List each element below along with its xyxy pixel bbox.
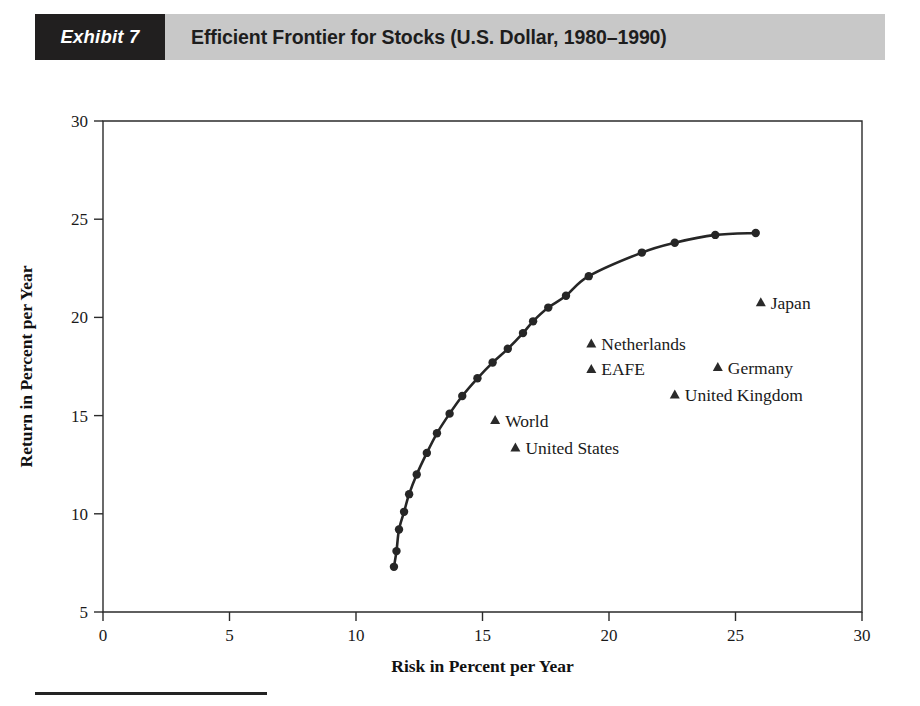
- exhibit-header: Exhibit 7 Efficient Frontier for Stocks …: [35, 14, 885, 60]
- frontier-data-point: [433, 429, 441, 437]
- country-marker-united-kingdom: [670, 389, 680, 398]
- y-axis-tick-label: 25: [71, 210, 88, 229]
- country-marker-united-states: [510, 443, 520, 452]
- x-axis-tick-label: 20: [601, 626, 618, 645]
- country-label-united-kingdom: United Kingdom: [685, 385, 804, 405]
- frontier-data-point: [392, 547, 400, 555]
- y-axis-tick-label: 20: [71, 308, 88, 327]
- frontier-data-point: [562, 292, 570, 300]
- frontier-data-point: [400, 508, 408, 516]
- frontier-data-point: [488, 358, 496, 366]
- country-label-world: World: [505, 411, 549, 431]
- country-label-netherlands: Netherlands: [601, 334, 686, 354]
- frontier-data-point: [473, 374, 481, 382]
- frontier-data-point: [585, 272, 593, 280]
- exhibit-number-tag: Exhibit 7: [35, 14, 165, 60]
- frontier-data-point: [395, 525, 403, 533]
- frontier-data-point: [445, 409, 453, 417]
- country-marker-germany: [713, 362, 723, 371]
- y-axis-tick-label: 30: [71, 112, 88, 131]
- y-axis-tick-label: 5: [80, 603, 89, 622]
- frontier-data-point: [544, 303, 552, 311]
- chart-container: 51015202530051015202530Risk in Percent p…: [0, 60, 920, 680]
- frontier-data-point: [519, 329, 527, 337]
- country-marker-japan: [756, 297, 766, 306]
- country-marker-world: [490, 415, 500, 424]
- frontier-data-point: [458, 392, 466, 400]
- x-axis-tick-label: 10: [348, 626, 365, 645]
- y-axis-tick-label: 15: [71, 407, 88, 426]
- country-label-japan: Japan: [771, 293, 811, 313]
- frontier-data-point: [423, 449, 431, 457]
- country-label-united-states: United States: [525, 438, 619, 458]
- footnote-divider: [35, 692, 267, 695]
- frontier-data-point: [752, 229, 760, 237]
- frontier-data-point: [711, 231, 719, 239]
- x-axis-tick-label: 30: [854, 626, 871, 645]
- exhibit-title: Efficient Frontier for Stocks (U.S. Doll…: [165, 14, 885, 60]
- efficient-frontier-chart: 51015202530051015202530Risk in Percent p…: [0, 60, 920, 680]
- frontier-data-point: [529, 317, 537, 325]
- country-label-eafe: EAFE: [601, 359, 645, 379]
- x-axis-tick-label: 0: [99, 626, 108, 645]
- frontier-data-point: [638, 248, 646, 256]
- country-marker-netherlands: [586, 338, 596, 347]
- y-axis-tick-label: 10: [71, 505, 88, 524]
- country-label-germany: Germany: [728, 358, 793, 378]
- frontier-data-point: [671, 239, 679, 247]
- frontier-data-point: [504, 345, 512, 353]
- x-axis-tick-label: 5: [225, 626, 234, 645]
- frontier-data-point: [413, 470, 421, 478]
- x-axis-tick-label: 25: [727, 626, 744, 645]
- y-axis-title: Return in Percent per Year: [16, 265, 36, 467]
- x-axis-title: Risk in Percent per Year: [391, 656, 574, 676]
- frontier-data-point: [405, 490, 413, 498]
- frontier-data-point: [390, 563, 398, 571]
- country-marker-eafe: [586, 364, 596, 373]
- x-axis-tick-label: 15: [474, 626, 491, 645]
